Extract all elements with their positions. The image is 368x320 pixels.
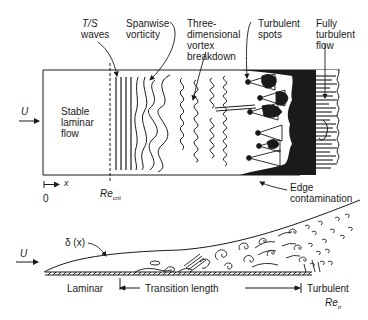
fully-turbulent-label-2: turbulent — [316, 29, 355, 40]
wall-surface — [45, 272, 312, 275]
x-axis-arrow — [44, 181, 59, 188]
transition-diagram-graphics — [0, 0, 368, 320]
ts-waves-label-2: waves — [81, 29, 109, 40]
ts-waves-label-1: T/S — [82, 18, 98, 29]
three-d-label-4: breakdown — [187, 51, 236, 62]
freestream-u-label-bottom: U — [20, 248, 27, 259]
x-axis-label: x — [64, 178, 69, 189]
re-crit-label: Recrit — [100, 188, 121, 204]
origin-label: 0 — [43, 193, 49, 204]
transition-length-label: Transition length — [145, 283, 219, 294]
re-tr-label: Retr — [325, 297, 341, 313]
ts-wave-lines — [116, 77, 131, 170]
turbulent-label: Turbulent — [307, 283, 349, 294]
edge-contamination-label-2: contamination — [290, 193, 352, 204]
spanwise-label-1: Spanwise — [126, 18, 169, 29]
three-d-label-2: dimensional — [187, 29, 240, 40]
stable-laminar-label-1: Stable — [61, 106, 89, 117]
three-d-label-1: Three- — [187, 18, 216, 29]
vortex-breakdown-squiggles — [180, 76, 256, 166]
delta-leader-arrow — [88, 243, 106, 256]
turbulent-spots-label-1: Turbulent — [258, 18, 300, 29]
three-d-label-3: vortex — [187, 40, 214, 51]
re-tr-main: Re — [325, 297, 338, 308]
stable-laminar-label-3: flow — [61, 128, 79, 139]
transition-eddies — [135, 214, 352, 272]
fully-turbulent-label-1: Fully — [316, 18, 337, 29]
turbulent-front — [240, 70, 318, 175]
fully-turbulent-region — [316, 70, 339, 175]
re-crit-main: Re — [100, 188, 113, 199]
spanwise-vorticity-lines — [135, 75, 170, 172]
turbulent-spots — [246, 74, 288, 166]
spanwise-label-2: vorticity — [126, 29, 160, 40]
re-crit-sub: crit — [113, 195, 121, 201]
edge-contamination-label-1: Edge — [290, 182, 313, 193]
freestream-u-label-top: U — [21, 106, 28, 117]
delta-x-label: δ (x) — [65, 237, 85, 248]
re-tr-sub: tr — [338, 304, 342, 310]
stable-laminar-label-2: laminar — [61, 117, 94, 128]
fully-turbulent-label-3: flow — [316, 40, 334, 51]
turbulent-spots-label-2: spots — [258, 29, 282, 40]
laminar-label: Laminar — [67, 283, 103, 294]
